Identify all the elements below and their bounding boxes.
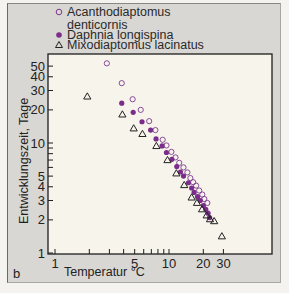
y-axis-label: Entwicklungszeit, Tage xyxy=(17,98,31,224)
y-tick-label: 10 xyxy=(31,136,45,151)
y-tick-label: 5 xyxy=(38,169,45,184)
filled-circle-marker xyxy=(131,110,136,115)
filled-circle-marker xyxy=(164,150,169,155)
x-tick-label: 1 xyxy=(51,256,58,271)
y-tick-label: 1 xyxy=(38,246,45,261)
filled-circle-marker xyxy=(119,101,124,106)
y-tick-label: 30 xyxy=(31,83,45,98)
y-tick-label: 2 xyxy=(38,212,45,227)
y-tick-label: 50 xyxy=(31,59,45,74)
filled-circle-marker xyxy=(189,185,194,190)
filled-circle-marker xyxy=(160,143,165,148)
panel-label: b xyxy=(13,266,20,281)
legend-label-acanthodiaptomus-line1: Acanthodiaptomus xyxy=(67,5,171,19)
x-axis-label: Temperatur °C xyxy=(64,265,145,279)
filled-circle-marker xyxy=(181,174,186,179)
filled-circle-legend-icon xyxy=(56,32,62,38)
x-tick-label: 30 xyxy=(216,256,230,271)
open-circle-legend-icon xyxy=(56,9,62,15)
filled-circle-marker xyxy=(148,128,153,133)
x-tick-label: 10 xyxy=(162,256,176,271)
y-tick-label: 3 xyxy=(38,193,45,208)
plot-area xyxy=(48,54,272,254)
triangle-legend-icon xyxy=(56,42,63,48)
y-tick-label: 20 xyxy=(31,102,45,117)
legend-label-mixodiaptomus: Mixodiaptomus lacinatus xyxy=(67,38,204,52)
filled-circle-marker xyxy=(174,164,179,169)
filled-circle-marker xyxy=(153,136,158,141)
scatter-chart: Acanthodiaptomus denticornis Daphnia lon… xyxy=(0,0,289,293)
legend: Acanthodiaptomus denticornis Daphnia lon… xyxy=(56,5,204,52)
x-tick-label: 20 xyxy=(196,256,210,271)
filled-circle-marker xyxy=(139,119,144,124)
